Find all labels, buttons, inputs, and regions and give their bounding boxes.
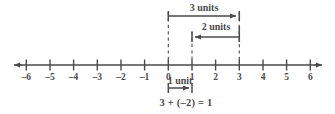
tick-label-6: 6: [308, 73, 313, 83]
tick-label-neg1: –1: [140, 73, 150, 83]
label-3-units: 3 units: [190, 3, 219, 13]
number-line-figure: –6 –5 –4 –3 –2 –1 0 1 2 3 4 5 6 3 units …: [0, 0, 335, 114]
tick-label-2: 2: [213, 73, 218, 83]
tick-label-3: 3: [237, 73, 242, 83]
tick-label-neg6: –6: [22, 73, 32, 83]
tick-label-neg2: –2: [116, 73, 126, 83]
label-1-unit: 1 unit: [168, 76, 193, 86]
tick-label-4: 4: [261, 73, 266, 83]
tick-label-neg5: –5: [45, 73, 55, 83]
equation-label: 3 + (–2) = 1: [160, 98, 213, 109]
tick-label-5: 5: [284, 73, 289, 83]
tick-label-neg4: –4: [69, 73, 79, 83]
label-2-units: 2 units: [202, 22, 231, 32]
tick-label-neg3: –3: [93, 73, 103, 83]
